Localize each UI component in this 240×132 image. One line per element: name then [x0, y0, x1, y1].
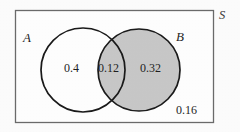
universe-label-s: S	[219, 9, 225, 22]
venn-diagram-canvas	[0, 0, 240, 132]
value-a-only: 0.4	[64, 62, 79, 74]
venn-diagram-figure: A B S 0.4 0.12 0.32 0.16	[0, 0, 240, 132]
value-intersection: 0.12	[98, 62, 119, 74]
value-outside-sets: 0.16	[176, 104, 197, 116]
set-label-b: B	[176, 30, 184, 43]
value-b-only: 0.32	[140, 62, 161, 74]
set-label-a: A	[23, 31, 31, 44]
